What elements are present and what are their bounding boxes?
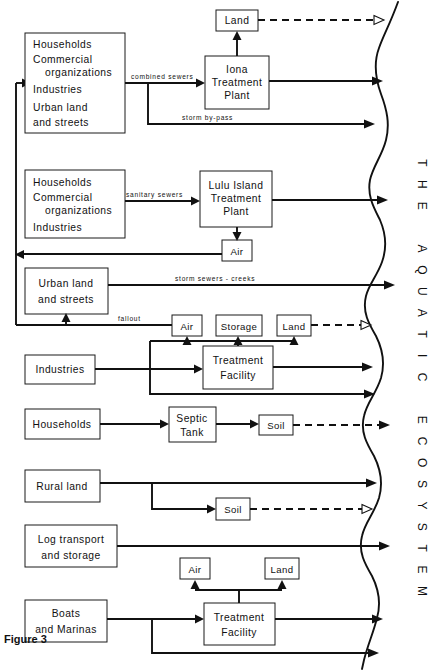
arrowhead-iona-in	[196, 79, 205, 88]
label-rural-land: Rural land	[36, 481, 87, 492]
label-lulu-2: Treatment	[211, 193, 262, 204]
label-source-sanitary-4: Industries	[33, 222, 82, 233]
arrowhead-industries-bypass-ecosystem	[364, 390, 375, 399]
label-land-boats: Land	[271, 564, 294, 575]
eco-label-letter: T	[415, 159, 429, 167]
label-source-sanitary-2: Commercial	[33, 192, 92, 203]
aquatic-ecosystem-label: THEAQUATICECOSYSTEM	[415, 159, 429, 596]
edge-label-storm-bypass: storm by-pass	[182, 114, 233, 122]
label-treatment-ind-1: Treatment	[213, 355, 264, 366]
label-septic-1: Septic	[176, 413, 207, 424]
arrowhead-open-soil-rural	[362, 505, 372, 514]
label-source-combined-5: Urban land	[33, 102, 88, 113]
label-iona-3: Plant	[224, 90, 250, 101]
box-treatment-facility-industries	[203, 346, 273, 389]
arrowhead-land-iona-in	[233, 31, 242, 40]
arrowhead-treatment-ind-ecosystem	[362, 363, 373, 372]
label-soil-rural: Soil	[224, 504, 242, 515]
eco-label-letter: C	[415, 373, 429, 382]
eco-label-letter: T	[415, 545, 429, 553]
label-storage: Storage	[221, 321, 257, 332]
eco-label-letter: Q	[415, 265, 429, 274]
label-lulu-3: Plant	[223, 206, 249, 217]
label-air-lulu: Air	[231, 246, 244, 257]
arrowhead-soil-septic-ecosystem	[379, 421, 390, 430]
eco-label-letter: T	[415, 331, 429, 339]
label-source-combined-6: and streets	[33, 117, 89, 128]
label-source-combined-4: Industries	[33, 84, 82, 95]
flow-diagram-svg: Households Commercial organizations Indu…	[0, 0, 440, 671]
label-log-2: and storage	[41, 550, 100, 561]
box-treatment-facility-boats	[204, 603, 275, 645]
label-boats-1: Boats	[52, 608, 81, 619]
arrowhead-storm-bypass-ecosystem	[364, 120, 375, 129]
eco-label-letter: I	[415, 354, 429, 357]
eco-label-letter: E	[415, 416, 429, 424]
label-urban-1: Urban land	[39, 278, 94, 289]
box-urban-land-streets	[25, 268, 108, 314]
eco-label-letter: A	[415, 309, 429, 317]
label-households-septic: Households	[33, 419, 92, 430]
label-land-industries: Land	[283, 321, 306, 332]
eco-label-letter: A	[415, 245, 429, 253]
arrowhead-soil-septic-in	[250, 420, 259, 429]
eco-label-letter: Y	[415, 501, 429, 509]
label-iona-2: Treatment	[212, 77, 263, 88]
label-source-combined-3: organizations	[45, 67, 112, 78]
label-log-1: Log transport	[38, 534, 105, 545]
label-septic-2: Tank	[180, 427, 204, 438]
eco-label-letter: U	[415, 287, 429, 296]
eco-label-letter: E	[415, 202, 429, 210]
aquatic-boundary-wave	[361, 2, 398, 669]
figure-caption: Figure 3	[4, 633, 47, 645]
arrowhead-septic-in	[160, 420, 169, 429]
label-source-sanitary-1: Households	[33, 177, 92, 188]
arrowhead-treatment-boats-in	[195, 615, 204, 624]
eco-label-letter: O	[415, 458, 429, 467]
edge-label-sanitary-sewers: sanitary sewers	[126, 191, 183, 199]
figure-diagram: Households Commercial organizations Indu…	[0, 0, 440, 671]
label-soil-septic: Soil	[267, 420, 285, 431]
edge-label-combined-sewers: combined sewers	[131, 73, 194, 80]
label-air-fallout: Air	[181, 321, 194, 332]
label-source-combined-2: Commercial	[33, 54, 92, 65]
arrowhead-storm-creeks-ecosystem	[384, 281, 395, 290]
label-land-iona: Land	[225, 15, 250, 26]
label-industries: Industries	[35, 364, 84, 375]
label-lulu-1: Lulu Island	[209, 180, 264, 191]
label-air-boats: Air	[189, 564, 202, 575]
eco-label-letter: C	[415, 437, 429, 446]
arrowhead-open-land-iona	[374, 16, 384, 25]
edge-label-storm-sewers-creeks: storm sewers - creeks	[175, 275, 255, 282]
arrowhead-rural-ecosystem	[366, 479, 377, 488]
arrowhead-lulu-ecosystem	[377, 196, 388, 205]
eco-label-letter: M	[415, 586, 429, 596]
arrowhead-log-ecosystem	[379, 542, 390, 551]
label-iona-1: Iona	[226, 64, 248, 75]
arrowhead-land-boats-in	[278, 580, 287, 589]
label-source-combined-1: Households	[33, 39, 92, 50]
arrowhead-air-boats-in	[191, 580, 200, 589]
label-treatment-ind-2: Facility	[220, 370, 256, 381]
label-urban-2: and streets	[38, 294, 94, 305]
label-treatment-boats-1: Treatment	[214, 612, 265, 623]
edge-label-fallout: fallout	[118, 315, 141, 322]
arrowhead-lulu-in	[191, 197, 200, 206]
eco-label-letter: E	[415, 566, 429, 574]
eco-label-letter: S	[415, 480, 429, 488]
arrowhead-treatment-ind-in	[194, 365, 203, 374]
eco-label-letter: H	[415, 180, 429, 189]
label-source-sanitary-3: organizations	[45, 205, 112, 216]
eco-label-letter: S	[415, 523, 429, 531]
arrowhead-boats-bypass-ecosystem	[368, 649, 379, 658]
edge-rural-to-soil	[152, 483, 208, 509]
arrowhead-soil-rural-in	[207, 505, 216, 514]
label-treatment-boats-2: Facility	[221, 627, 257, 638]
